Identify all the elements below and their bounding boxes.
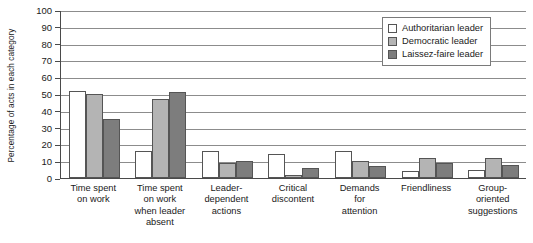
bar-group-bars [128, 11, 195, 178]
x-axis-label-line: for [326, 194, 393, 205]
x-axis-label-line: Leader- [193, 183, 260, 194]
y-axis-tick: 0 [0, 173, 60, 185]
x-axis-label-line: Demands [326, 183, 393, 194]
legend: Authoritarian leaderDemocratic leaderLai… [382, 17, 491, 66]
legend-swatch [388, 37, 397, 46]
bar[interactable] [86, 94, 103, 178]
x-axis-label-line: on work [127, 194, 194, 205]
x-axis-labels: Time spenton workTime spenton workwhen l… [60, 183, 526, 241]
y-axis-tick-label: 50 [41, 89, 52, 101]
legend-label: Laissez-faire leader [402, 48, 483, 61]
y-axis-tick: 70 [0, 55, 60, 67]
bar-group [194, 11, 261, 178]
y-axis-tick: 60 [0, 72, 60, 84]
bar-group-bars [261, 11, 328, 178]
y-axis-tick: 40 [0, 106, 60, 118]
bar-group-bars [61, 11, 128, 178]
y-axis-tick: 30 [0, 123, 60, 135]
bar[interactable] [169, 92, 186, 178]
bar[interactable] [152, 99, 169, 178]
x-axis-label-line: suggestions [459, 206, 526, 217]
x-axis-label-line: oriented [459, 194, 526, 205]
x-axis-label: Criticaldiscontent [260, 183, 327, 206]
bar[interactable] [369, 166, 386, 178]
bar[interactable] [103, 119, 120, 178]
bar[interactable] [436, 163, 453, 178]
y-axis-tick-label: 80 [41, 39, 52, 51]
bar[interactable] [268, 154, 285, 178]
x-axis-label-line: Group- [459, 183, 526, 194]
bar-chart: Percentage of acts in each category 1009… [0, 0, 533, 243]
bar-group [128, 11, 195, 178]
bar[interactable] [468, 170, 485, 178]
y-axis-tick-label: 0 [47, 173, 52, 185]
y-axis-ticks: 1009080706050403020100 [0, 0, 60, 180]
x-axis-label: Group-orientedsuggestions [459, 183, 526, 217]
legend-item[interactable]: Authoritarian leader [388, 22, 483, 35]
legend-label: Democratic leader [402, 35, 477, 48]
x-axis-label: Leader-dependentactions [193, 183, 260, 217]
bar[interactable] [219, 163, 236, 178]
x-axis-label: Time spenton workwhen leaderabsent [127, 183, 194, 229]
y-axis-tick-label: 20 [41, 139, 52, 151]
legend-item[interactable]: Democratic leader [388, 35, 483, 48]
y-axis-tick-label: 10 [41, 156, 52, 168]
x-axis-label-line: when leader [127, 206, 194, 217]
y-axis-tick: 100 [0, 5, 60, 17]
legend-swatch [388, 50, 397, 59]
y-axis-tick-label: 100 [36, 5, 52, 17]
bar[interactable] [202, 151, 219, 178]
y-axis-tick: 50 [0, 89, 60, 101]
bar[interactable] [485, 158, 502, 178]
y-axis-tick-label: 70 [41, 55, 52, 67]
x-axis-label-line: absent [127, 217, 194, 228]
legend-swatch [388, 24, 397, 33]
x-axis-label: Demandsforattention [326, 183, 393, 217]
y-axis-tick-label: 90 [41, 22, 52, 34]
x-axis-label-line: attention [326, 206, 393, 217]
bar[interactable] [69, 91, 86, 178]
bar[interactable] [335, 151, 352, 178]
bar[interactable] [285, 175, 302, 178]
x-axis-label-line: on work [60, 194, 127, 205]
x-axis-label: Friendliness [393, 183, 460, 194]
legend-label: Authoritarian leader [402, 22, 483, 35]
y-axis-tick-label: 40 [41, 106, 52, 118]
x-axis-label-line: dependent [193, 194, 260, 205]
x-axis-label-line: actions [193, 206, 260, 217]
bar-group [61, 11, 128, 178]
bar[interactable] [302, 168, 319, 178]
bar[interactable] [352, 161, 369, 178]
y-axis-tick: 80 [0, 39, 60, 51]
bar[interactable] [402, 171, 419, 178]
x-axis-label-line: discontent [260, 194, 327, 205]
bar[interactable] [502, 165, 519, 178]
bar[interactable] [135, 151, 152, 178]
y-axis-tick: 10 [0, 156, 60, 168]
x-axis-label-line: Time spent [127, 183, 194, 194]
bar-group-bars [194, 11, 261, 178]
bar[interactable] [236, 161, 253, 178]
x-axis-label-line: Time spent [60, 183, 127, 194]
x-axis-label-line: Friendliness [393, 183, 460, 194]
y-axis-tick-label: 30 [41, 123, 52, 135]
y-axis-tick-label: 60 [41, 72, 52, 84]
y-axis-tick: 20 [0, 139, 60, 151]
x-axis-label: Time spenton work [60, 183, 127, 206]
bar-group [261, 11, 328, 178]
x-axis-label-line: Critical [260, 183, 327, 194]
y-axis-tick: 90 [0, 22, 60, 34]
bar[interactable] [419, 158, 436, 178]
legend-item[interactable]: Laissez-faire leader [388, 48, 483, 61]
